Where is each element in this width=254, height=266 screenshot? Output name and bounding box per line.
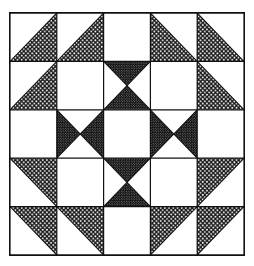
cell-r1c3-plain-square-base (104, 13, 151, 61)
figure-caption: Pieced quilt block pattern (0, 259, 254, 266)
cell-r3c5-plain-square-base (197, 110, 244, 158)
cell-r3c1-plain-square-base (10, 110, 57, 158)
cell-r2c4-plain-square-base (150, 61, 197, 109)
cell-r3c3-plain-square-base (104, 110, 151, 158)
cell-r4c4-plain-square-base (150, 158, 197, 206)
cell-r2c2-plain-square-base (57, 61, 104, 109)
cell-r5c3-plain-square-base (104, 207, 151, 255)
cell-r4c2-plain-square-base (57, 158, 104, 206)
quilt-outer-frame (9, 12, 245, 256)
quilt-block-figure: Pieced quilt block pattern (0, 0, 254, 266)
quilt-grid (10, 13, 244, 255)
